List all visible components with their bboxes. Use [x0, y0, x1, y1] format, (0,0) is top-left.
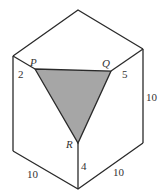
- label-right-edge-10: 10: [146, 91, 158, 103]
- top-face-outline: [13, 10, 143, 56]
- cube-diagram: P Q R 2 5 4 10 10 10: [0, 0, 168, 193]
- label-seg-5: 5: [122, 68, 128, 80]
- label-bottom-left-10: 10: [27, 168, 39, 180]
- label-p: P: [29, 56, 37, 68]
- label-seg-2: 2: [18, 68, 24, 80]
- label-bottom-right-10: 10: [113, 166, 125, 178]
- label-seg-4: 4: [81, 160, 87, 172]
- shaded-triangle-pqr: [35, 69, 111, 143]
- label-q: Q: [102, 57, 110, 69]
- label-r: R: [65, 138, 73, 150]
